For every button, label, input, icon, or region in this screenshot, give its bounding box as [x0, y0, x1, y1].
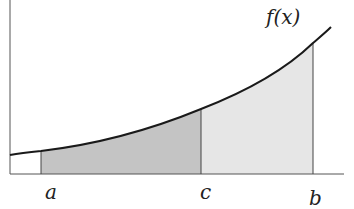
function-label: f(x) [264, 5, 300, 29]
region-c-to-b [201, 43, 313, 174]
integral-diagram: f(x) a c b [0, 0, 354, 209]
label-b: b [309, 186, 322, 209]
label-a: a [45, 180, 57, 204]
diagram-canvas: f(x) a c b [0, 0, 354, 209]
label-c: c [200, 180, 211, 204]
